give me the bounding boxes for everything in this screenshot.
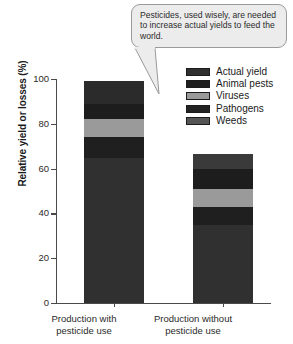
legend-label: Actual yield [216,67,267,77]
callout-bubble: Pesticides, used wisely, are needed to i… [131,4,287,48]
y-tick-label-60: 60 [38,164,49,174]
legend-swatch-icon [186,105,210,113]
y-tick-label-0: 0 [44,298,49,308]
segment-weeds [84,137,144,158]
legend-label: Weeds [216,116,247,126]
x-category-line-1: Production with [25,313,143,325]
chart-figure: Relative yield or losses (%) 100 80 60 4… [0,0,293,344]
x-tick-left [114,303,115,307]
legend-swatch-icon [186,80,210,88]
callout-text: Pesticides, used wisely, are needed to i… [140,10,279,41]
segment-viruses [193,169,253,189]
chart-legend: Actual yield Animal pests Viruses Pathog… [186,66,273,127]
legend-label: Viruses [216,91,249,101]
legend-swatch-icon [186,92,210,100]
y-tick-label-20: 20 [38,253,49,263]
segment-viruses [84,104,144,120]
y-tick-label-100: 100 [33,74,49,84]
legend-item-weeds: Weeds [186,115,273,127]
y-axis-label: Relative yield or losses (%) [17,39,28,209]
segment-pathogens [193,189,253,207]
legend-item-actual-yield: Actual yield [186,66,273,78]
x-category-line-2: pesticide use [134,325,252,337]
legend-swatch-icon [186,68,210,76]
callout-tail-icon [133,48,171,96]
legend-label: Pathogens [216,104,264,114]
x-category-line-1: Production without [134,313,252,325]
legend-item-animal-pests: Animal pests [186,78,273,90]
bar-production-without-pesticide [193,154,253,304]
segment-animal-pests [193,154,253,170]
segment-actual-yield [84,158,144,303]
x-category-line-2: pesticide use [25,325,143,337]
legend-item-viruses: Viruses [186,90,273,102]
x-category-label-without-pesticide: Production without pesticide use [134,313,252,336]
x-axis-line [56,303,271,304]
segment-weeds [193,207,253,225]
segment-pathogens [84,119,144,137]
segment-actual-yield [193,225,253,303]
y-tick-label-80: 80 [38,119,49,129]
x-category-label-with-pesticide: Production with pesticide use [25,313,143,336]
y-axis-line [56,79,57,304]
legend-swatch-icon [186,117,210,125]
legend-label: Animal pests [216,79,273,89]
legend-item-pathogens: Pathogens [186,103,273,115]
bar-production-with-pesticide [84,81,144,303]
y-tick-label-40: 40 [38,209,49,219]
x-tick-right [223,303,224,307]
